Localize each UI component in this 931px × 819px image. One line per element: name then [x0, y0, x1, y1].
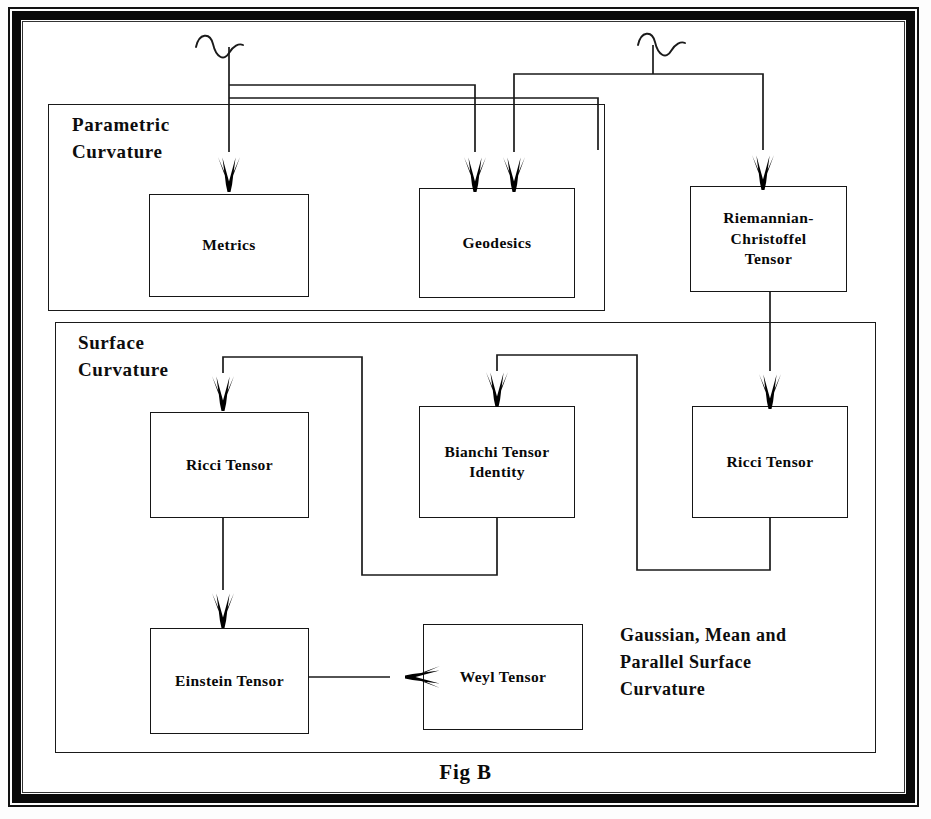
node-bianchi-tensor-identity[interactable]: Bianchi Tensor Identity: [419, 406, 575, 518]
node-weyl-tensor[interactable]: Weyl Tensor: [423, 624, 583, 730]
node-ricci-tensor-left[interactable]: Ricci Tensor: [150, 412, 309, 518]
note-gaussian-mean-parallel-surface-curvature: Gaussian, Mean and Parallel Surface Curv…: [620, 622, 787, 703]
node-einstein-tensor[interactable]: Einstein Tensor: [150, 628, 309, 734]
panel-label-parametric-curvature: Parametric Curvature: [72, 112, 170, 166]
panel-label-surface-curvature: Surface Curvature: [78, 330, 169, 384]
figure-canvas: Parametric Curvature Surface Curvature M…: [0, 0, 931, 819]
node-riemannian-christoffel-tensor[interactable]: Riemannian- Christoffel Tensor: [690, 186, 847, 292]
node-metrics[interactable]: Metrics: [149, 194, 309, 297]
node-ricci-tensor-right[interactable]: Ricci Tensor: [692, 406, 848, 518]
figure-caption: Fig B: [0, 760, 931, 785]
node-geodesics[interactable]: Geodesics: [419, 188, 575, 298]
